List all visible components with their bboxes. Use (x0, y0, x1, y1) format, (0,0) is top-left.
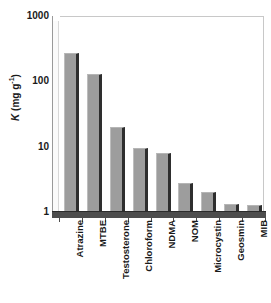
bar (110, 127, 125, 212)
x-axis-category-labels: AtrazineMTBETestosteroneChloroformNDMANO… (52, 220, 266, 303)
x-axis-category-label: Chloroform (143, 220, 154, 272)
plot-area (52, 16, 266, 218)
x-axis-category-label: Geosmin (235, 220, 246, 261)
y-axis-tick-labels: 1000100101 (0, 0, 49, 303)
y-axis-tick-label: 1 (7, 207, 49, 217)
bar (201, 192, 216, 212)
x-axis-category-label: Microcystin (212, 220, 223, 273)
plot-side-wall (52, 20, 59, 213)
x-axis-category-label: Testosterone (120, 220, 131, 279)
x-axis-category-label: MIB (258, 220, 269, 237)
plot-floor-shelf (52, 211, 266, 218)
bar-series (59, 16, 265, 212)
y-axis-tick-label: 10 (7, 142, 49, 152)
bar (64, 53, 79, 212)
x-axis-category-label: MTBE (97, 220, 108, 247)
y-axis-tick-label: 100 (7, 76, 49, 86)
bar (156, 153, 171, 212)
bar-chart-figure: K (mg g-1) 1000100101 AtrazineMTBETestos… (0, 0, 271, 303)
y-axis-tick-label: 1000 (7, 11, 49, 21)
x-axis-category-label: NOM (189, 220, 200, 242)
x-axis-category-label: NDMA (166, 220, 177, 249)
x-axis-category-label: Atrazine (74, 220, 85, 257)
bar (133, 148, 148, 212)
bar (178, 183, 193, 212)
bar (87, 74, 102, 212)
plot-floor-edge (52, 211, 266, 212)
